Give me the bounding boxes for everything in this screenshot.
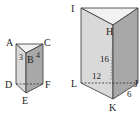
right-prism: I H 16 12 L J 6 K: [71, 3, 138, 113]
edge-label-bc: 4: [36, 51, 40, 60]
vertex-label-a: A: [6, 37, 14, 48]
vertex-label-j: J: [134, 78, 138, 89]
vertex-label-k: K: [109, 102, 117, 113]
left-prism: A C B 3 4 D F E: [5, 37, 51, 106]
vertex-label-d: D: [5, 79, 12, 90]
edge-label-kj: 6: [127, 89, 132, 99]
edge-label-lj: 12: [92, 71, 101, 81]
vertex-label-h: H: [106, 26, 113, 37]
vertex-label-f: F: [45, 79, 51, 90]
left-prism-front-right-face: [26, 44, 43, 93]
edge-label-ab: 3: [19, 53, 23, 62]
vertex-label-c: C: [44, 37, 51, 48]
prism-diagram: A C B 3 4 D F E I H 16 12 L J 6 K: [0, 0, 140, 116]
vertex-label-i: I: [71, 3, 74, 14]
height-label: 16: [100, 54, 110, 64]
vertex-label-l: L: [71, 78, 77, 89]
vertex-label-b: B: [27, 54, 34, 65]
prisms-svg: A C B 3 4 D F E I H 16 12 L J 6 K: [0, 0, 140, 116]
left-prism-front-left-face: [16, 44, 26, 93]
vertex-label-e: E: [22, 95, 28, 106]
